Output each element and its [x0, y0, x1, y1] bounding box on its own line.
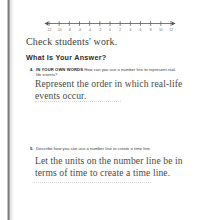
svg-text:-6: -6	[78, 28, 81, 32]
question-4-answer: Represent the order in which real-life e…	[35, 78, 195, 103]
svg-text:10: 10	[159, 28, 163, 32]
svg-text:-12: -12	[47, 28, 52, 32]
svg-text:0: 0	[109, 28, 111, 32]
section-heading-what-is-your-answer: What Is Your Answer?	[26, 53, 106, 62]
svg-text:2: 2	[119, 28, 121, 32]
question-5-number: 5.	[30, 146, 33, 151]
svg-text:6: 6	[140, 28, 142, 32]
question-4-prompt: IN YOUR OWN WORDS How can you use a numb…	[36, 67, 178, 77]
workbook-page: -12-10-8-6-4-2024681012 Check students' …	[0, 0, 218, 220]
svg-text:-2: -2	[98, 28, 101, 32]
question-4-number: 4.	[30, 67, 33, 72]
question-5-answer: Let the units on the number line be in t…	[35, 155, 197, 180]
svg-text:-10: -10	[57, 28, 62, 32]
svg-text:12: 12	[169, 28, 173, 32]
number-line-svg: -12-10-8-6-4-2024681012	[44, 18, 176, 33]
number-line-graphic: -12-10-8-6-4-2024681012	[44, 18, 176, 33]
svg-text:-4: -4	[88, 28, 91, 32]
answer-rule-4	[35, 101, 121, 102]
answer-rule-5	[33, 182, 151, 183]
svg-text:8: 8	[150, 28, 152, 32]
svg-text:4: 4	[129, 28, 131, 32]
svg-text:-8: -8	[68, 28, 71, 32]
check-students-work-note: Check students' work.	[26, 36, 117, 48]
question-5-prompt: Describe how you can use a number line t…	[36, 146, 186, 151]
scan-binding-shadow	[10, 0, 14, 220]
